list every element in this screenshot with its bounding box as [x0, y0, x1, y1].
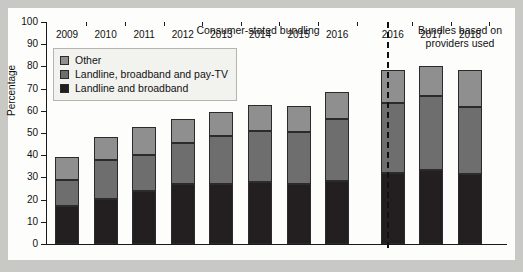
y-tick: 80 [41, 66, 46, 67]
bar-stack [287, 106, 311, 244]
bar-segment-other [132, 127, 156, 155]
bar-stack [209, 112, 233, 244]
y-tick: 30 [41, 177, 46, 178]
bar-stack [419, 66, 443, 244]
x-axis-line [46, 244, 507, 245]
legend-swatch-icon [60, 70, 69, 79]
panel-title-left: Consumer-stated bundling [158, 24, 358, 37]
y-tick-label: 30 [27, 170, 38, 183]
chart-legend: OtherLandline, broadband and pay-TVLandl… [53, 48, 237, 101]
y-tick-label: 10 [27, 215, 38, 228]
bar-segment-other [55, 157, 79, 179]
bar-stack [55, 157, 79, 244]
x-tick [125, 22, 126, 26]
y-tick-label: 20 [27, 193, 38, 206]
bar-segment-other [325, 92, 349, 119]
bar-segment-landline-broadband-paytv [248, 131, 272, 182]
y-tick: 10 [41, 222, 46, 223]
x-tick [86, 22, 87, 26]
legend-item: Other [60, 53, 228, 67]
bar-segment-landline-broadband-paytv [171, 143, 195, 184]
bar-segment-landline-and-broadband [55, 206, 79, 244]
x-tick-label: 2010 [94, 29, 116, 40]
bar-segment-landline-and-broadband [458, 174, 482, 244]
bar-segment-other [419, 66, 443, 96]
legend-swatch-icon [60, 56, 69, 65]
bar-segment-landline-broadband-paytv [458, 107, 482, 174]
bar-segment-landline-broadband-paytv [381, 103, 405, 173]
bar-segment-landline-and-broadband [381, 173, 405, 244]
bar-segment-landline-broadband-paytv [287, 132, 311, 184]
bar-segment-other [209, 112, 233, 136]
y-tick-label: 0 [32, 237, 38, 250]
bar-stack [381, 70, 405, 244]
bar-stack [458, 70, 482, 244]
y-tick-label: 70 [27, 82, 38, 95]
y-tick-label: 50 [27, 126, 38, 139]
x-tick-label: 2009 [56, 29, 78, 40]
bar-segment-landline-broadband-paytv [55, 180, 79, 207]
legend-item-label: Other [75, 54, 101, 66]
y-tick: 60 [41, 111, 46, 112]
bar-segment-landline-and-broadband [287, 184, 311, 244]
bar-stack [94, 137, 118, 244]
legend-item-label: Landline, broadband and pay-TV [75, 68, 228, 80]
panel-title-right-line1: Bundles based on [418, 24, 502, 36]
bar-segment-landline-and-broadband [132, 191, 156, 244]
bar-segment-other [248, 105, 272, 131]
bar-segment-landline-and-broadband [419, 170, 443, 244]
y-axis-title: Percentage [6, 65, 17, 116]
legend-item: Landline, broadband and pay-TV [60, 67, 228, 81]
y-tick: 70 [41, 89, 46, 90]
bar-stack [132, 127, 156, 244]
y-tick: 90 [41, 44, 46, 45]
y-tick-label: 90 [27, 37, 38, 50]
bar-segment-landline-broadband-paytv [94, 160, 118, 199]
bar-segment-landline-broadband-paytv [132, 155, 156, 191]
legend-item-label: Landline and broadband [75, 82, 188, 94]
y-tick-label: 40 [27, 148, 38, 161]
legend-swatch-icon [60, 84, 69, 93]
panel-title-right-line2: providers used [426, 37, 495, 49]
panel-title-right: Bundles based onproviders used [400, 24, 520, 50]
y-tick: 40 [41, 155, 46, 156]
bar-segment-landline-and-broadband [209, 184, 233, 244]
bar-stack [325, 92, 349, 244]
y-tick-label: 60 [27, 104, 38, 117]
bar-segment-landline-and-broadband [171, 184, 195, 244]
bar-segment-landline-and-broadband [325, 181, 349, 244]
bar-stack [248, 105, 272, 244]
bar-segment-other [458, 70, 482, 108]
chart-figure: 0102030405060708090100 20092010201120122… [8, 8, 515, 260]
y-tick: 50 [41, 133, 46, 134]
y-tick: 0 [41, 244, 46, 245]
bar-segment-landline-broadband-paytv [325, 119, 349, 181]
bar-segment-other [381, 70, 405, 103]
x-tick-label: 2011 [133, 29, 155, 40]
bar-segment-landline-and-broadband [248, 182, 272, 244]
legend-item: Landline and broadband [60, 81, 228, 95]
bar-stack [171, 119, 195, 244]
bar-segment-landline-broadband-paytv [419, 96, 443, 169]
bar-segment-landline-broadband-paytv [209, 136, 233, 184]
bar-segment-landline-and-broadband [94, 199, 118, 245]
y-tick: 20 [41, 200, 46, 201]
bar-segment-other [94, 137, 118, 159]
panel-divider-dashed-line [387, 22, 389, 248]
y-tick: 100 [41, 22, 46, 23]
y-tick-label: 100 [21, 15, 38, 28]
y-tick-label: 80 [27, 59, 38, 72]
bar-segment-other [171, 119, 195, 143]
bar-segment-other [287, 106, 311, 132]
